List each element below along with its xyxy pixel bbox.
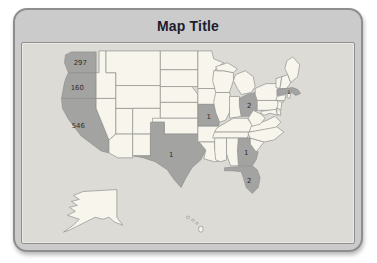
state-wisconsin[interactable]: [213, 71, 234, 93]
state-florida[interactable]: [225, 166, 261, 194]
state-nebraska[interactable]: [160, 87, 198, 103]
map-title: Map Title: [157, 18, 219, 34]
state-new-mexico[interactable]: [133, 134, 151, 156]
state-south-dakota[interactable]: [160, 70, 198, 87]
state-utah[interactable]: [116, 108, 133, 134]
state-hawaii-island-4[interactable]: [198, 226, 203, 232]
state-north-dakota[interactable]: [160, 51, 198, 70]
state-value-tx: 1: [169, 151, 173, 159]
state-michigan[interactable]: [233, 71, 255, 95]
state-hawaii-island-2[interactable]: [192, 219, 195, 221]
state-hawaii-island-3[interactable]: [196, 222, 198, 224]
state-arizona[interactable]: [109, 134, 133, 158]
state-value-ca: 546: [72, 122, 85, 130]
map-panel: 297 160 546 1 1 2 1 1 2: [21, 42, 355, 244]
map-header: Map Title: [15, 10, 361, 42]
state-value-mo: 1: [207, 113, 211, 121]
state-pennsylvania[interactable]: [257, 100, 280, 110]
state-tennessee[interactable]: [213, 132, 250, 138]
state-value-oh: 2: [247, 102, 251, 110]
map-widget: Map Title: [0, 0, 377, 263]
state-value-ga: 1: [244, 149, 248, 157]
state-wyoming[interactable]: [116, 86, 160, 109]
state-value-wa: 297: [74, 59, 87, 67]
state-value-ma: 1: [287, 89, 290, 95]
state-hawaii-island-1[interactable]: [186, 216, 189, 218]
state-mississippi[interactable]: [215, 138, 227, 162]
map-card: Map Title: [13, 8, 363, 252]
state-value-or: 160: [71, 84, 84, 92]
state-alaska[interactable]: [64, 190, 123, 233]
state-value-fl: 2: [247, 177, 251, 185]
state-kansas[interactable]: [160, 102, 198, 118]
us-map: 297 160 546 1 1 2 1 1 2: [22, 43, 354, 243]
